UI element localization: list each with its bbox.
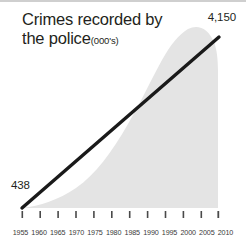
annotation-start-value: 438 xyxy=(11,179,30,191)
x-tick-label: 1975 xyxy=(86,228,104,240)
x-axis-ticks xyxy=(22,211,220,218)
x-tick-label: 1985 xyxy=(123,228,141,240)
x-tick-label: 1970 xyxy=(67,228,85,240)
x-tick-label: 1965 xyxy=(49,228,67,240)
crimes-area-chart xyxy=(0,2,246,244)
x-tick-label: 2010 xyxy=(216,228,234,240)
x-tick-label: 1960 xyxy=(30,228,48,240)
x-tick-label: 1990 xyxy=(142,228,160,240)
x-tick-label: 2000 xyxy=(179,228,197,240)
x-axis-tick-labels: 1955 1960 1965 1970 1975 1980 1985 1990 … xyxy=(0,228,246,240)
annotation-end-value: 4,150 xyxy=(208,11,236,23)
x-tick-label: 1980 xyxy=(105,228,123,240)
chart-frame: Crimes recorded by the police(000's) 4,1… xyxy=(0,0,246,244)
x-tick-label: 2005 xyxy=(198,228,216,240)
x-tick-label: 1955 xyxy=(11,228,29,240)
x-tick-label: 1995 xyxy=(161,228,179,240)
